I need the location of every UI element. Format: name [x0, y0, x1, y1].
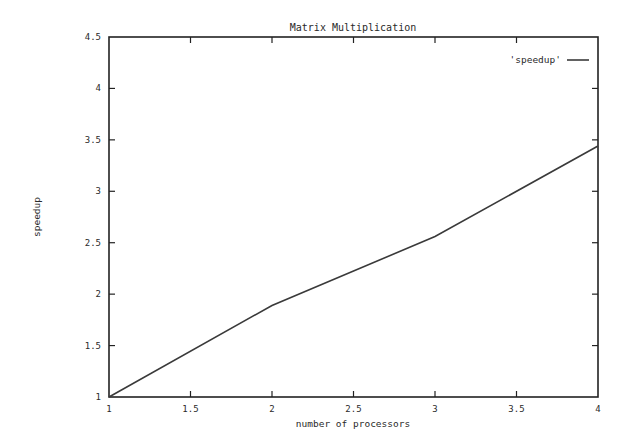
y-tick-label: 1: [96, 392, 101, 402]
x-tick-label: 1.5: [182, 404, 198, 414]
y-tick-label: 2: [96, 289, 101, 299]
chart-title: Matrix Multiplication: [290, 22, 416, 33]
y-tick-label: 3: [96, 186, 101, 196]
y-tick-label: 1.5: [85, 341, 101, 351]
y-tick-label: 4.5: [85, 32, 101, 42]
y-axis-label-group: speedup: [31, 197, 42, 237]
y-axis-label: speedup: [31, 197, 42, 237]
x-tick-label: 3: [432, 404, 437, 414]
ticks-layer: 11.522.533.5411.522.533.544.5: [85, 32, 601, 414]
speedup-line: [109, 146, 598, 397]
plot-frame: [109, 37, 598, 397]
legend: 'speedup': [510, 54, 589, 65]
y-tick-label: 4: [96, 83, 101, 93]
x-tick-label: 3.5: [508, 404, 524, 414]
x-tick-label: 4: [595, 404, 600, 414]
y-tick-label: 2.5: [85, 238, 101, 248]
x-tick-label: 1: [106, 404, 111, 414]
y-tick-label: 3.5: [85, 135, 101, 145]
legend-label: 'speedup': [510, 54, 561, 65]
x-tick-label: 2: [269, 404, 274, 414]
chart: Matrix Multiplication speedup number of …: [0, 0, 633, 447]
x-tick-label: 2.5: [345, 404, 361, 414]
x-axis-label: number of processors: [296, 418, 410, 429]
